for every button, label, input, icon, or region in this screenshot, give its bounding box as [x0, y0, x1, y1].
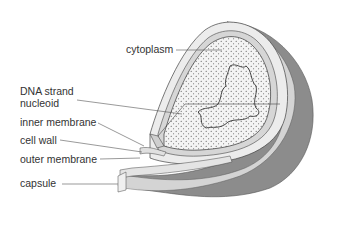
capsule-end — [118, 172, 126, 192]
leader-cell-wall — [60, 140, 142, 152]
label-cell-wall: cell wall — [20, 135, 57, 146]
leader-outer-membrane — [100, 158, 140, 159]
label-nucleoid: nucleoid — [20, 98, 59, 109]
label-outer-membrane: outer membrane — [20, 154, 97, 165]
label-capsule: capsule — [20, 178, 56, 189]
label-inner-membrane: inner membrane — [20, 117, 96, 128]
cytoplasm-region — [164, 37, 271, 151]
label-cytoplasm: cytoplasm — [126, 44, 173, 55]
leader-inner-membrane — [98, 123, 144, 146]
label-dna-strand: DNA strand — [20, 86, 74, 97]
